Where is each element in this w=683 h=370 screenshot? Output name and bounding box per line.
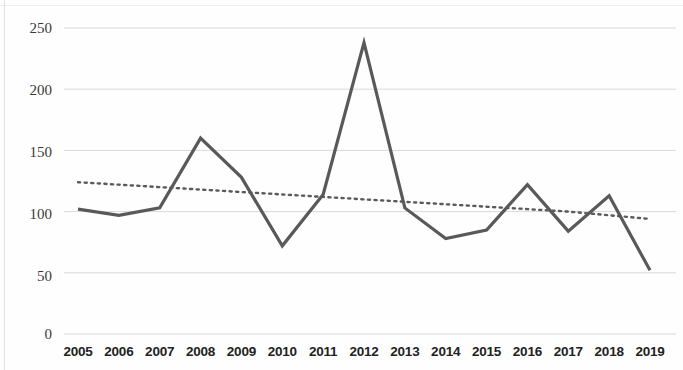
- x-axis-label-2013: 2013: [385, 345, 425, 359]
- x-axis-label-2007: 2007: [140, 345, 180, 359]
- x-axis-label-2006: 2006: [99, 345, 139, 359]
- x-axis-label-2012: 2012: [344, 345, 384, 359]
- x-axis-label-2008: 2008: [181, 345, 221, 359]
- plot-area: [0, 0, 683, 370]
- gridlines: [64, 28, 676, 334]
- x-axis-label-2011: 2011: [303, 345, 343, 359]
- x-axis-label-2017: 2017: [548, 345, 588, 359]
- x-axis-label-2018: 2018: [589, 345, 629, 359]
- x-axis-label-2005: 2005: [58, 345, 98, 359]
- x-axis-label-2009: 2009: [221, 345, 261, 359]
- x-axis-label-2014: 2014: [426, 345, 466, 359]
- x-axis-label-2010: 2010: [262, 345, 302, 359]
- x-axis-label-2015: 2015: [467, 345, 507, 359]
- x-axis-label-2016: 2016: [507, 345, 547, 359]
- line-chart: 250 200 150 100 50 0 2005200620072008200…: [0, 0, 683, 370]
- x-axis-label-2019: 2019: [630, 345, 670, 359]
- data-series-line: [78, 43, 650, 271]
